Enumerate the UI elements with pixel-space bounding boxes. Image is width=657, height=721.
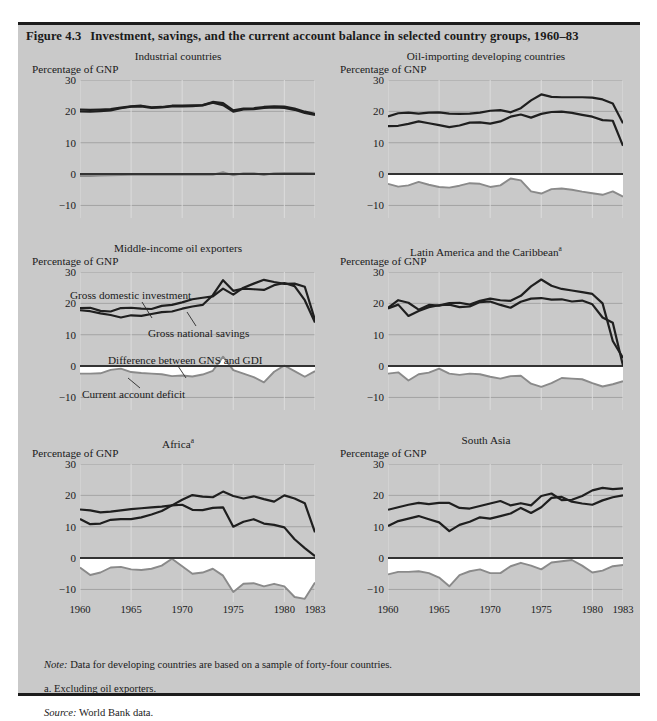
- series-line-savings: [388, 112, 623, 146]
- y-tick-label: 30: [65, 74, 76, 86]
- panel-grid: Industrial countriesPercentage of GNP302…: [18, 50, 640, 640]
- series-annotation-label: Gross national savings: [148, 327, 249, 339]
- y-tick-label: 10: [65, 329, 76, 341]
- y-axis-ticks: 3020100−10: [338, 80, 384, 218]
- figure-container: Figure 4.3Investment, savings, and the c…: [18, 22, 640, 696]
- series-line-savings: [388, 495, 623, 531]
- series-annotation-label: Difference between GNS and GDI: [108, 354, 263, 366]
- x-tick-label: 1980: [274, 604, 295, 615]
- footnotes: Note: Data for developing countries are …: [44, 658, 624, 721]
- x-tick-label: 1983: [304, 604, 325, 615]
- y-tick-label: 30: [373, 458, 384, 470]
- x-tick-label: 1980: [582, 604, 603, 615]
- footnote-text: World Bank data.: [77, 707, 154, 718]
- y-axis-ticks: 3020100−10: [30, 464, 76, 602]
- footnote-lead: Source:: [44, 707, 77, 718]
- chart-panel: Latin America and the CaribbeanaPercenta…: [338, 242, 634, 434]
- y-axis-ticks: 3020100−10: [338, 272, 384, 410]
- y-axis-ticks: 3020100−10: [338, 464, 384, 602]
- y-tick-label: 30: [65, 458, 76, 470]
- y-tick-label: −10: [59, 583, 76, 595]
- x-axis-ticks: 196019651970197519801983: [80, 604, 315, 620]
- y-tick-label: −10: [59, 199, 76, 211]
- y-tick-label: 10: [65, 137, 76, 149]
- y-tick-label: 0: [71, 360, 77, 372]
- panel-title: Industrial countries: [30, 50, 326, 63]
- panel-title-footnote-marker: a: [191, 436, 194, 445]
- panel-title-footnote-marker: a: [559, 244, 562, 253]
- y-tick-label: 10: [373, 329, 384, 341]
- x-tick-label: 1983: [612, 604, 633, 615]
- chart-panel: Middle-income oil exportersPercentage of…: [30, 242, 326, 434]
- figure-number: Figure 4.3: [26, 29, 81, 43]
- y-tick-label: 30: [373, 266, 384, 278]
- x-axis-ticks: 196019651970197519801983: [388, 604, 623, 620]
- panel-title: Middle-income oil exporters: [30, 242, 326, 255]
- panel-title: Oil-importing developing countries: [338, 50, 634, 63]
- panel-title: South Asia: [338, 434, 634, 447]
- x-tick-label: 1960: [69, 604, 90, 615]
- x-tick-label: 1960: [377, 604, 398, 615]
- footnote-text: Data for developing countries are based …: [68, 659, 392, 670]
- y-tick-label: 20: [373, 297, 384, 309]
- series-annotation-label: Gross domestic investment: [70, 289, 191, 301]
- x-tick-label: 1970: [480, 604, 501, 615]
- series-annotation-label: Current account deficit: [82, 388, 185, 400]
- y-tick-label: 10: [373, 521, 384, 533]
- y-tick-label: 20: [373, 105, 384, 117]
- y-tick-label: −10: [59, 391, 76, 403]
- y-axis-ticks: 3020100−10: [30, 80, 76, 218]
- footnote-lead: Note:: [44, 659, 68, 670]
- y-tick-label: 30: [373, 74, 384, 86]
- chart-panel: South AsiaPercentage of GNP3020100−10196…: [338, 434, 634, 626]
- plot-area: [388, 272, 623, 410]
- series-line-savings: [80, 280, 315, 322]
- y-tick-label: 0: [379, 552, 385, 564]
- plot-area: [388, 464, 623, 602]
- y-tick-label: 10: [65, 521, 76, 533]
- y-tick-label: −10: [367, 583, 384, 595]
- y-tick-label: 0: [71, 552, 77, 564]
- footnote-line: Note: Data for developing countries are …: [44, 658, 624, 671]
- series-line-savings: [80, 505, 315, 556]
- y-tick-label: 0: [71, 168, 77, 180]
- chart-panel: Industrial countriesPercentage of GNP302…: [30, 50, 326, 242]
- y-tick-label: 0: [379, 360, 385, 372]
- bottom-rule: [18, 693, 640, 696]
- chart-panel: AfricaaPercentage of GNP3020100−10196019…: [30, 434, 326, 626]
- footnote-line: Source: World Bank data.: [44, 706, 624, 719]
- y-tick-label: 10: [373, 137, 384, 149]
- y-tick-label: 20: [373, 489, 384, 501]
- x-tick-label: 1975: [223, 604, 244, 615]
- x-tick-label: 1965: [428, 604, 449, 615]
- y-tick-label: 20: [65, 105, 76, 117]
- plot-area: [388, 80, 623, 218]
- y-tick-label: −10: [367, 199, 384, 211]
- y-tick-label: 0: [379, 168, 385, 180]
- series-line-savings: [388, 298, 623, 366]
- series-line-investment: [388, 280, 623, 358]
- plot-area: [80, 80, 315, 218]
- x-tick-label: 1965: [120, 604, 141, 615]
- figure-title-text: Investment, savings, and the current acc…: [90, 29, 578, 43]
- x-tick-label: 1970: [172, 604, 193, 615]
- y-tick-label: 20: [65, 489, 76, 501]
- series-line-investment: [388, 488, 623, 510]
- x-tick-label: 1975: [531, 604, 552, 615]
- plot-area: [80, 464, 315, 602]
- y-tick-label: 30: [65, 266, 76, 278]
- top-rule: [18, 22, 640, 25]
- figure-title: Figure 4.3Investment, savings, and the c…: [26, 29, 636, 44]
- y-tick-label: −10: [367, 391, 384, 403]
- chart-panel: Oil-importing developing countriesPercen…: [338, 50, 634, 242]
- deficit-fill-area: [80, 558, 315, 599]
